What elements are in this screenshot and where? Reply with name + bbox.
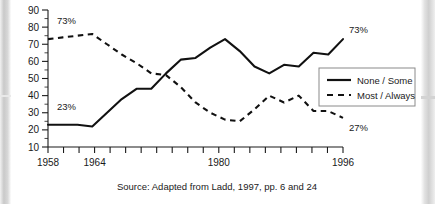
page-gutter-left-seam xyxy=(0,95,11,97)
x-tick-label: 1996 xyxy=(332,157,355,168)
legend-label-none-some: None / Some xyxy=(357,75,412,86)
chart-legend: None / Some Most / Always xyxy=(319,68,415,106)
series-line-most-always xyxy=(48,34,343,121)
x-axis-tick-labels: 1958196419801996 xyxy=(37,157,355,168)
line-chart-svg: 102030405060708090 1958196419801996 73% … xyxy=(11,0,421,204)
page-gutter-right xyxy=(421,0,435,204)
y-axis-tick-labels: 102030405060708090 xyxy=(28,5,40,153)
annotation-start-most-always: 73% xyxy=(57,15,77,26)
series-line-none-some xyxy=(48,39,343,126)
figure-page: 102030405060708090 1958196419801996 73% … xyxy=(0,0,435,204)
annotation-end-none-some: 73% xyxy=(349,24,369,35)
y-tick-label: 80 xyxy=(28,22,40,33)
source-note: Source: Adapted from Ladd, 1997, pp. 6 a… xyxy=(117,181,317,192)
y-tick-label: 50 xyxy=(28,73,40,84)
page-gutter-left xyxy=(0,0,11,204)
y-tick-label: 70 xyxy=(28,39,40,50)
x-axis-ticks xyxy=(48,147,343,153)
x-tick-label: 1980 xyxy=(208,157,231,168)
legend-label-most-always: Most / Always xyxy=(357,90,415,101)
annotation-end-most-always: 27% xyxy=(349,122,369,133)
annotation-start-none-some: 23% xyxy=(57,101,77,112)
x-tick-label: 1958 xyxy=(37,157,60,168)
chart-area: 102030405060708090 1958196419801996 73% … xyxy=(11,0,421,204)
y-tick-label: 10 xyxy=(28,142,40,153)
y-axis-ticks xyxy=(42,10,48,147)
page-gutter-right-seam xyxy=(421,96,435,99)
y-tick-label: 40 xyxy=(28,90,40,101)
y-tick-label: 20 xyxy=(28,124,40,135)
y-tick-label: 60 xyxy=(28,56,40,67)
y-tick-label: 30 xyxy=(28,107,40,118)
x-tick-label: 1964 xyxy=(83,157,106,168)
y-tick-label: 90 xyxy=(28,5,40,16)
